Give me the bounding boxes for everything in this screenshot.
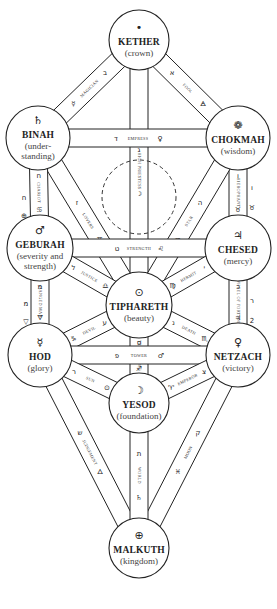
astrological-sign-icon: ♐ xyxy=(136,365,142,373)
astrological-sign-icon: ♀ xyxy=(157,135,162,143)
astrological-sign-icon: ♄ xyxy=(136,494,142,502)
sephira-name: MALKUTH xyxy=(113,545,165,555)
hebrew-letter-icon: ח xyxy=(36,172,41,180)
hebrew-letter-icon: א xyxy=(170,69,175,77)
sephira-meaning: (victory) xyxy=(222,363,254,373)
hebrew-letter-icon: ר xyxy=(72,368,76,376)
astrological-sign-icon: ♏ xyxy=(201,335,208,343)
astrological-sign-icon: ♋ xyxy=(36,206,42,214)
astrological-sign-icon: ♑ xyxy=(70,335,76,343)
hod-planet-icon: ☿ xyxy=(37,336,44,349)
sephira-name: BINAH xyxy=(22,130,55,140)
astrological-sign-icon: ♎ xyxy=(102,282,108,290)
sephira-meaning: (severity and xyxy=(17,251,64,261)
hebrew-letter-icon: ב xyxy=(103,69,107,77)
hebrew-letter-icon: ע xyxy=(102,319,106,327)
hebrew-letter-icon: ו xyxy=(237,172,239,180)
sephira-hod: ☿HOD(glory) xyxy=(8,323,72,387)
tree-of-life-diagram: FOOLא🜁MAGICIANב☿HIGH PRIESTESSג☽EMPRESSד… xyxy=(0,0,277,609)
hebrew-letter-icon: פ xyxy=(115,352,119,360)
sephira-meaning: (beauty) xyxy=(124,313,154,323)
sephira-meaning: (kingdom) xyxy=(120,556,158,566)
path-card-label: CHARIOT xyxy=(36,182,41,203)
hebrew-letter-icon: מ xyxy=(38,283,43,291)
path-card-label: TOWER xyxy=(131,353,147,358)
side-glyph-icon: ח xyxy=(22,194,27,202)
astrological-sign-icon: 🜁 xyxy=(200,100,206,108)
sephira-meaning: (under- xyxy=(25,141,51,151)
sephira-name: KETHER xyxy=(118,37,160,47)
hebrew-letter-icon: ל xyxy=(72,264,76,272)
astrological-sign-icon: 🜄 xyxy=(37,314,43,322)
astrological-sign-icon: ♈ xyxy=(168,384,174,392)
hebrew-letter-icon: ד xyxy=(114,135,118,143)
astrological-sign-icon: ♓ xyxy=(175,468,181,476)
sephira-tiphareth: ⊙TIPHARETH(beauty) xyxy=(106,272,172,338)
astrological-sign-icon: ♌ xyxy=(158,245,164,253)
sephira-meaning: (foundation) xyxy=(117,411,162,421)
side-glyph-icon: ו xyxy=(251,184,253,192)
sephira-meaning: (wisdom) xyxy=(221,146,256,156)
astrological-sign-icon: ♂ xyxy=(158,352,164,360)
sephira-malkuth: ⊕MALKUTH(kingdom) xyxy=(109,518,169,578)
sephira-meaning: standing) xyxy=(21,151,55,161)
sephira-name: HOD xyxy=(29,352,51,362)
tiphareth-planet-icon: ⊙ xyxy=(134,286,143,299)
astrological-sign-icon: ☽ xyxy=(136,190,142,198)
kether-planet-icon: • xyxy=(136,21,143,34)
side-glyph-icon: ♉ xyxy=(249,204,255,212)
astrological-sign-icon: ☿ xyxy=(71,100,75,108)
sephira-yesod: ☽YESOD(foundation) xyxy=(109,373,169,433)
sephira-chesed: ♃CHESED(mercy) xyxy=(205,215,271,281)
path-card-label: HIGH PRIESTESS xyxy=(137,153,142,190)
sephira-name: GEBURAH xyxy=(15,240,65,250)
malkuth-planet-icon: ⊕ xyxy=(134,529,143,542)
hebrew-letter-icon: ט xyxy=(115,245,120,253)
yesod-planet-icon: ☽ xyxy=(134,384,144,397)
path-card-label: WORLD xyxy=(137,467,142,484)
sephira-name: TIPHARETH xyxy=(110,302,169,312)
hebrew-letter-icon: ה xyxy=(198,199,203,207)
path-card-label: STRENGTH xyxy=(127,246,151,251)
hebrew-letter-icon: כ xyxy=(236,283,240,291)
sephira-binah: ♄BINAH(under-standing) xyxy=(6,106,70,170)
sephira-meaning: (glory) xyxy=(28,363,53,373)
chesed-planet-icon: ♃ xyxy=(233,229,243,242)
sephira-name: CHOKMAH xyxy=(211,135,265,145)
path-card-label: HIEROPHANT xyxy=(236,178,241,208)
path-card-label: HANGED MAN xyxy=(38,286,43,318)
hebrew-letter-icon: ת xyxy=(137,450,142,458)
sephira-geburah: ♂GEBURAH(severity andstrength) xyxy=(7,215,73,281)
binah-planet-icon: ♄ xyxy=(33,114,43,127)
astrological-sign-icon: ♉ xyxy=(235,206,241,214)
hebrew-letter-icon: ש xyxy=(77,429,82,437)
chokmah-planet-icon: ❁ xyxy=(233,119,242,132)
sephira-name: CHESED xyxy=(218,245,258,255)
hebrew-letter-icon: ק xyxy=(196,429,201,437)
geburah-planet-icon: ♂ xyxy=(35,224,45,237)
side-glyph-icon: מ xyxy=(24,300,29,308)
path-high-priestess: HIGH PRIESTESSג☽ xyxy=(130,40,148,305)
astrological-sign-icon: ♍ xyxy=(169,282,175,290)
side-glyph-icon: 2 xyxy=(250,317,254,325)
side-glyph-icon: ר xyxy=(250,297,254,305)
sephira-meaning: (crown) xyxy=(125,48,154,58)
sephira-name: YESOD xyxy=(122,400,156,410)
astrological-sign-icon: 🜂 xyxy=(97,468,103,476)
sephira-chokmah: ❁CHOKMAH(wisdom) xyxy=(206,106,270,170)
sephira-meaning: strength) xyxy=(24,261,56,271)
astrological-sign-icon: ⊙ xyxy=(104,384,110,392)
hebrew-letter-icon: צ xyxy=(202,368,206,376)
sephira-kether: •KETHER(crown) xyxy=(109,10,169,70)
netzach-planet-icon: ♀ xyxy=(234,336,242,349)
sephira-meaning: (mercy) xyxy=(224,256,252,266)
sephira-name: NETZACH xyxy=(214,352,263,362)
hebrew-letter-icon: נ xyxy=(172,319,175,327)
sephira-netzach: ♀NETZACH(victory) xyxy=(206,323,270,387)
astrological-sign-icon: ♃ xyxy=(235,314,241,322)
path-card-label: EMPRESS xyxy=(128,136,149,141)
